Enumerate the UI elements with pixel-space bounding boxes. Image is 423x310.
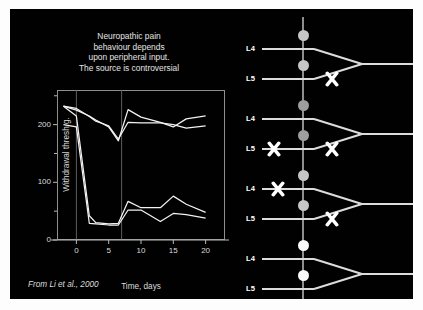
panel-3-drg-soma-l5 [298, 200, 309, 211]
x-tick-label-20: 20 [196, 246, 216, 255]
y-tick-label-100: 100 [29, 177, 51, 186]
y-axis-label: Withdrawal thresh g. [62, 100, 71, 210]
panel-2-lesion-l5-proximal [266, 141, 282, 157]
chart-series-intact-high-2 [63, 106, 205, 139]
x-tick-label-0: 0 [66, 246, 86, 255]
chart-series-lesioned-low-2 [63, 125, 205, 225]
panel-3-drg-soma-l4 [298, 170, 309, 181]
panel-2-drg-soma-l4 [298, 100, 309, 111]
panel-4-drg-soma-l4 [298, 240, 309, 251]
x-tick-label-5: 5 [99, 246, 119, 255]
x-tick-label-10: 10 [131, 246, 151, 255]
slide-canvas: Neuropathic pain behaviour depends upon … [10, 9, 413, 299]
x-tick-label-15: 15 [163, 246, 183, 255]
panel-2-l4-converge [314, 119, 362, 134]
title-line-4: The source is controversial [10, 63, 248, 74]
chart-series-lesioned-low-1 [63, 106, 205, 224]
chart-series-intact-high-1 [63, 106, 205, 141]
plot-lines [57, 90, 225, 240]
y-tick-label-0: 0 [29, 235, 51, 244]
panel-4-label-l4: L4 [246, 254, 255, 263]
panel-4-l4-converge [314, 259, 362, 274]
y-tick-label-200: 200 [29, 120, 51, 129]
title-line-2: behaviour depends [10, 42, 248, 53]
panel-1-drg-soma-l4 [298, 30, 309, 41]
panel-4-label-l5: L5 [246, 284, 255, 293]
panel-4-drg-soma-l5 [298, 270, 309, 281]
panel-3-l4-converge [314, 189, 362, 204]
panel-1-label-l4: L4 [246, 44, 255, 53]
title-line-3: upon peripheral input. [10, 52, 248, 63]
panel-4-l5-converge [314, 274, 362, 289]
title-line-1: Neuropathic pain [10, 31, 248, 42]
withdrawal-threshold-chart: Withdrawal thresh g. Time, days [57, 90, 225, 240]
panel-2-lesion-l5-distal [324, 141, 340, 157]
panel-2-label-l4: L4 [246, 114, 255, 123]
panel-3-lesion-l5-distal [324, 211, 340, 227]
panel-1-l4-converge [314, 49, 362, 64]
slide-title: Neuropathic pain behaviour depends upon … [10, 31, 248, 73]
panel-2-label-l5: L5 [246, 144, 255, 153]
panel-3-lesion-l4-proximal [270, 181, 286, 197]
panel-1-drg-soma-l5 [298, 60, 309, 71]
panel-2-drg-soma-l5 [298, 130, 309, 141]
source-credit: From Li et al., 2000 [28, 280, 99, 289]
panel-3-label-l4: L4 [246, 184, 255, 193]
panel-3-label-l5: L5 [246, 214, 255, 223]
panel-1-label-l5: L5 [246, 74, 255, 83]
panel-1-lesion-l5-distal [324, 71, 340, 87]
